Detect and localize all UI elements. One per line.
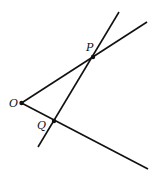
point-O [19,101,23,105]
geometry-diagram: O P Q [0,0,162,180]
label-Q: Q [37,119,46,132]
line-QP [38,12,119,147]
ray-OP [22,22,148,103]
label-P: P [85,41,94,54]
point-Q [52,119,56,123]
ray-OQ [22,103,149,169]
label-O: O [9,97,18,110]
point-P [91,55,95,59]
